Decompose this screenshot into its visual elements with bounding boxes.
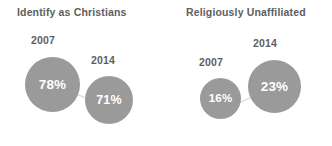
bubble-value-left-2014: 71% xyxy=(96,94,122,107)
panel-religiously-unaffiliated: Religiously Unaffiliated 2007 2014 16% 2… xyxy=(166,0,332,146)
bubble-right-2007: 16% xyxy=(200,78,241,119)
bubble-value-right-2007: 16% xyxy=(209,93,233,105)
bubble-right-2014: 23% xyxy=(248,60,301,113)
year-label-right-2014: 2014 xyxy=(253,37,277,49)
year-label-left-2014: 2014 xyxy=(91,54,115,66)
connector-line-left xyxy=(0,0,166,146)
bubble-left-2014: 71% xyxy=(85,76,133,124)
connector-line-right xyxy=(166,0,332,146)
panel-identify-as-christians: Identify as Christians 2007 2014 78% 71% xyxy=(0,0,166,146)
year-label-right-2007: 2007 xyxy=(199,56,223,68)
year-label-left-2007: 2007 xyxy=(31,34,55,46)
bubble-value-right-2014: 23% xyxy=(261,80,289,94)
bubble-comparison-infographic: Identify as Christians 2007 2014 78% 71%… xyxy=(0,0,332,146)
bubble-value-left-2007: 78% xyxy=(39,78,67,92)
bubble-left-2007: 78% xyxy=(25,57,80,112)
